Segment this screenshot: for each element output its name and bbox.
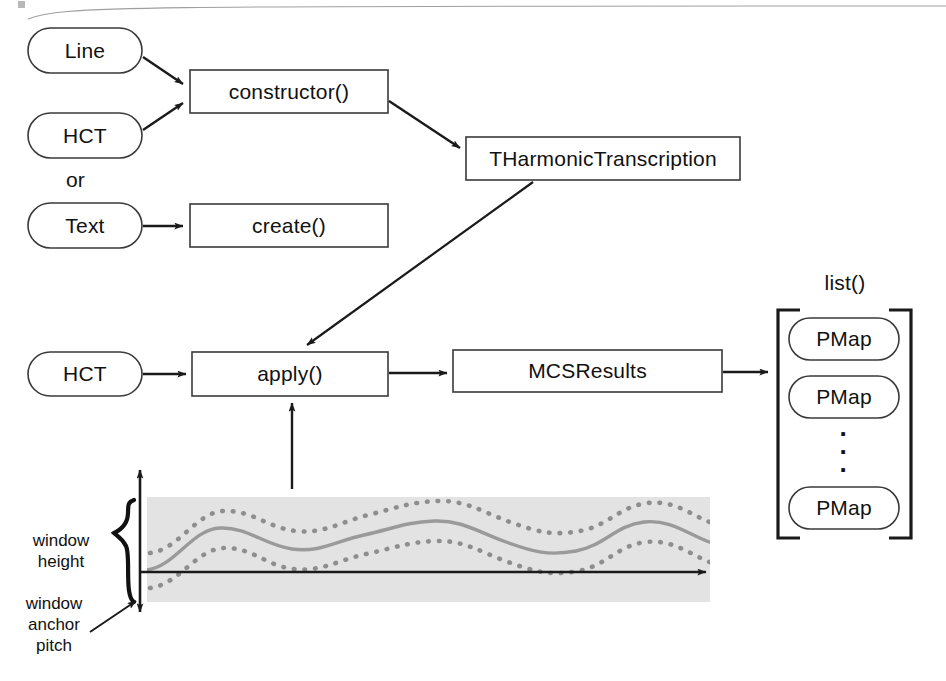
node-constructor[interactable]	[190, 70, 388, 113]
diagram-canvas: Line HCT or Text constructor() create() …	[0, 0, 946, 681]
node-line[interactable]	[28, 28, 142, 73]
arrow-constructor-to-tharmonic	[389, 101, 460, 148]
node-mcsresults[interactable]	[453, 350, 722, 392]
node-pmap-1[interactable]	[789, 318, 899, 360]
node-pmap-2[interactable]	[789, 376, 899, 418]
label-window-height: window height	[8, 530, 114, 572]
arrow-line-to-constructor	[143, 57, 183, 84]
scan-edge-line	[28, 6, 946, 19]
node-tharmonictranscription[interactable]	[466, 137, 740, 180]
label-window-anchor-pitch: window anchor pitch	[8, 593, 100, 656]
arrow-hct-to-constructor	[143, 103, 183, 130]
scan-speck	[18, 1, 25, 8]
node-hct-top[interactable]	[28, 113, 142, 158]
brace-window-height	[114, 500, 134, 602]
node-text[interactable]	[28, 203, 142, 248]
node-hct-mid[interactable]	[28, 352, 142, 396]
node-pmap-n[interactable]	[789, 487, 899, 529]
node-apply[interactable]	[192, 352, 388, 396]
label-or: or	[66, 168, 85, 192]
node-create[interactable]	[190, 204, 388, 247]
diagram-vector-layer	[0, 0, 946, 681]
